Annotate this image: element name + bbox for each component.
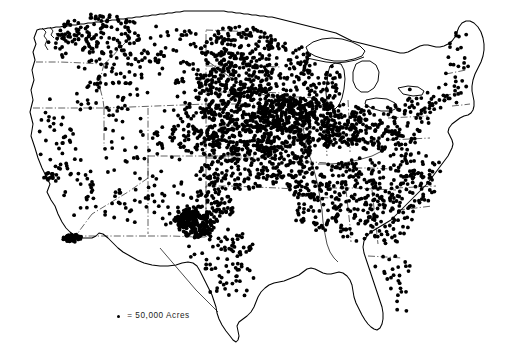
density-dot (54, 179, 58, 183)
density-dot (299, 188, 303, 192)
density-dot (277, 100, 281, 104)
density-dot (353, 213, 357, 217)
density-dot (314, 86, 318, 90)
density-dot (333, 137, 337, 141)
density-dot (215, 219, 219, 223)
density-dot (263, 31, 267, 35)
density-dot (226, 206, 230, 210)
density-dot (50, 172, 54, 176)
density-dot (179, 117, 183, 121)
density-dot (392, 153, 396, 157)
density-dot (334, 89, 338, 93)
density-dot (410, 104, 414, 108)
density-dot (72, 213, 76, 217)
density-dot (164, 223, 168, 227)
density-dot (369, 139, 373, 143)
density-dot (408, 88, 412, 92)
density-dot (186, 115, 190, 119)
density-dot (365, 203, 369, 207)
density-dot (202, 173, 206, 177)
density-dot (325, 71, 329, 75)
density-dot (443, 99, 447, 103)
density-dot (335, 133, 339, 137)
density-dot (462, 66, 466, 70)
density-dot (378, 182, 382, 186)
density-dot (90, 190, 94, 194)
density-dot (331, 77, 335, 81)
density-dot (283, 46, 287, 50)
density-dot (204, 52, 208, 56)
density-dot (90, 180, 94, 184)
density-dot (397, 210, 401, 214)
density-dot (129, 81, 133, 85)
density-dot (224, 187, 228, 191)
density-dot (384, 241, 388, 245)
density-dot (358, 139, 362, 143)
density-dot (198, 83, 202, 87)
density-dot (195, 198, 199, 202)
density-dot (420, 187, 424, 191)
density-dot (367, 179, 371, 183)
density-dot (71, 132, 75, 136)
density-dot (107, 45, 111, 49)
density-dot (238, 66, 242, 70)
density-dot (176, 114, 180, 118)
density-dot (106, 41, 110, 45)
density-dot (341, 173, 345, 177)
density-dot (304, 150, 308, 154)
density-dot (120, 32, 124, 36)
density-dot (276, 128, 280, 132)
density-dot (102, 52, 106, 56)
density-dot (236, 51, 240, 55)
density-dot (208, 110, 212, 114)
density-dot (123, 148, 127, 152)
density-dot (181, 193, 185, 197)
density-dot (220, 135, 224, 139)
density-dot (334, 197, 338, 201)
density-dot (244, 36, 248, 40)
density-dot (246, 104, 250, 108)
density-dot (295, 55, 299, 59)
density-dot (226, 123, 230, 127)
density-dot (134, 57, 138, 61)
density-dot (405, 216, 409, 220)
density-dot (338, 208, 342, 212)
density-dot (61, 116, 65, 120)
density-dot (338, 121, 342, 125)
density-dot (393, 103, 397, 107)
density-dot (79, 235, 83, 239)
density-dot (126, 62, 130, 66)
density-dot (203, 163, 207, 167)
density-dot (183, 101, 187, 105)
density-dot (333, 114, 337, 118)
density-dot (114, 72, 118, 76)
density-dot (232, 88, 236, 92)
density-dot (405, 124, 409, 128)
density-dot (218, 61, 222, 65)
density-dot (345, 187, 349, 191)
density-dot (266, 137, 270, 141)
density-dot (292, 114, 296, 118)
density-dot (226, 42, 230, 46)
density-dot (92, 22, 96, 26)
density-dot (115, 56, 119, 60)
density-dot (262, 146, 266, 150)
density-dot (231, 210, 235, 214)
density-dot (386, 106, 390, 110)
density-dot (311, 104, 315, 108)
density-dot (317, 137, 321, 141)
density-dot (249, 98, 253, 102)
density-dot (368, 207, 372, 211)
density-dot (211, 126, 215, 130)
density-dot (90, 16, 94, 20)
density-dot (290, 169, 294, 173)
density-dot (261, 138, 265, 142)
density-dot (309, 100, 313, 104)
density-dot (210, 42, 214, 46)
density-dot (397, 169, 401, 173)
density-dot (153, 43, 157, 47)
density-dot (346, 119, 350, 123)
density-dot (252, 72, 256, 76)
density-dot (282, 174, 286, 178)
density-dot (213, 156, 217, 160)
